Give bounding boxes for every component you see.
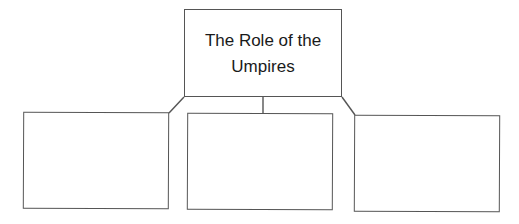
connector-left — [169, 97, 184, 113]
root-label: The Role of the Umpires — [193, 28, 333, 80]
child-box-right[interactable] — [354, 115, 500, 213]
child-box-middle[interactable] — [187, 113, 333, 211]
root-box: The Role of the Umpires — [184, 9, 342, 97]
connector-right — [342, 97, 355, 115]
child-box-left[interactable] — [23, 112, 169, 210]
